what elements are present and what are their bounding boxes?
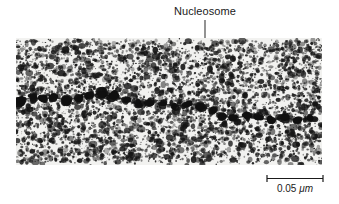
scale-bar-rule-icon [266,174,324,183]
scale-bar-unit: μm [299,183,313,194]
scale-bar-label: 0.05 μm [260,183,330,194]
electron-micrograph-image [16,38,322,165]
scale-bar-value: 0.05 [277,183,296,194]
nucleosome-label: Nucleosome [170,5,240,17]
nucleosome-bracket-icon [16,38,322,165]
figure-container: Nucleosome 0.05 μm [0,0,339,204]
scale-bar: 0.05 μm [266,174,324,200]
